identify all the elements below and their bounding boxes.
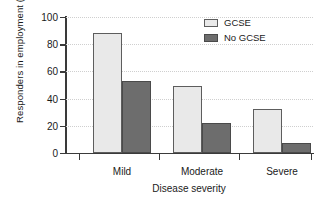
y-axis-line [65, 16, 67, 154]
x-tick-mark-3 [311, 153, 312, 160]
bar-mild-no-gcse [122, 81, 151, 153]
x-tick-mark-2 [239, 153, 240, 160]
x-tick-mark-0 [79, 153, 80, 160]
y-tick-mark-100 [60, 17, 65, 18]
y-tick-label-80: 80 [47, 39, 58, 50]
x-category-label-mild: Mild [113, 166, 131, 177]
chart-legend: GCSE No GCSE [204, 16, 266, 46]
bar-severe-gcse [253, 109, 282, 153]
bar-moderate-gcse [173, 86, 202, 153]
bar-moderate-no-gcse [202, 123, 231, 153]
y-tick-label-0: 0 [52, 148, 58, 159]
y-tick-mark-60 [60, 71, 65, 72]
y-tick-label-100: 100 [41, 12, 58, 23]
y-axis-title: Responders in employment (%) [14, 0, 28, 130]
bar-severe-no-gcse [282, 143, 311, 153]
legend-item-gcse: GCSE [204, 16, 266, 29]
legend-item-no-gcse: No GCSE [204, 31, 266, 44]
plot-area: 100 80 60 40 20 0 [65, 17, 313, 153]
y-tick-label-60: 60 [47, 66, 58, 77]
y-tick-mark-20 [60, 126, 65, 127]
y-tick-mark-0 [60, 153, 65, 154]
legend-swatch-no-gcse-icon [204, 34, 218, 42]
x-category-label-moderate: Moderate [181, 166, 223, 177]
y-tick-mark-80 [60, 44, 65, 45]
x-axis-title: Disease severity [65, 183, 313, 194]
bar-mild-gcse [93, 33, 122, 153]
bar-chart-figure: Responders in employment (%) 100 80 60 4… [0, 0, 330, 208]
y-tick-label-40: 40 [47, 93, 58, 104]
x-category-label-severe: Severe [266, 166, 298, 177]
gridline-100 [66, 17, 313, 19]
legend-label-no-gcse: No GCSE [224, 32, 266, 43]
x-tick-mark-1 [159, 153, 160, 160]
y-tick-mark-40 [60, 99, 65, 100]
y-tick-label-20: 20 [47, 120, 58, 131]
legend-label-gcse: GCSE [224, 17, 251, 28]
legend-swatch-gcse-icon [204, 19, 218, 27]
